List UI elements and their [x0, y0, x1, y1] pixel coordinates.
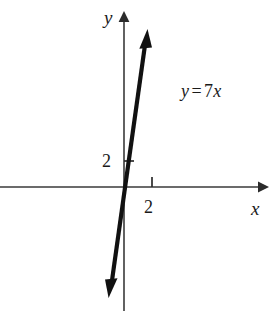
line-y-equals-7x: [112, 45, 146, 284]
x-axis-tick-label-2: 2: [144, 198, 153, 216]
equation-operator: =: [189, 81, 204, 101]
equation-annotation: y=7x: [181, 81, 222, 102]
graph-figure: y x 2 2 y=7x: [0, 0, 276, 311]
equation-coefficient: 7: [204, 81, 213, 101]
line-upper-arrowhead: [139, 29, 152, 49]
line-lower-arrowhead: [105, 278, 118, 298]
y-axis-label: y: [104, 8, 112, 27]
y-axis-tick-label-2: 2: [102, 152, 111, 170]
equation-variable: x: [213, 81, 221, 101]
x-axis-label: x: [251, 199, 259, 218]
y-axis-arrowhead: [119, 11, 130, 22]
x-axis-arrowhead: [258, 182, 269, 193]
coordinate-plane: [0, 0, 276, 311]
